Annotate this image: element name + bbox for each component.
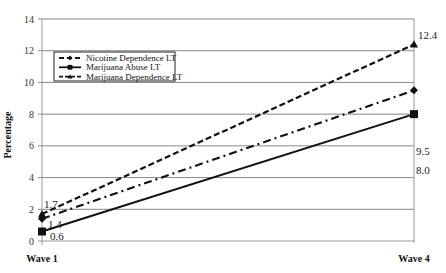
- y-tick-label: 6: [29, 140, 34, 151]
- data-label: 8.0: [416, 164, 430, 176]
- y-axis-label: Percentage: [2, 111, 13, 159]
- x-category-label: Wave 4: [398, 253, 429, 264]
- y-tick-label: 14: [24, 14, 34, 25]
- data-label: 12.4: [418, 29, 438, 41]
- y-tick-label: 12: [24, 45, 34, 56]
- y-tick-label: 4: [29, 172, 34, 183]
- series-marijuana-abuse-lt: [38, 110, 418, 235]
- y-axis: 02468101214: [24, 14, 42, 247]
- y-tick-label: 2: [29, 204, 34, 215]
- y-tick-label: 8: [29, 109, 34, 120]
- diamond-marker: [410, 86, 418, 94]
- legend: Nicotine Dependence LTMarijuana Abuse LT…: [54, 52, 183, 82]
- series-nicotine-dependence-lt: [38, 86, 418, 222]
- series-line: [42, 90, 414, 218]
- x-category-label: Wave 1: [26, 253, 57, 264]
- data-label: 1.7: [44, 198, 58, 210]
- data-label: 1.4: [48, 218, 62, 230]
- data-label: 9.5: [416, 145, 430, 157]
- square-marker: [38, 227, 46, 235]
- square-marker: [410, 110, 418, 118]
- legend-label: Marijuana Dependence LT: [86, 72, 183, 82]
- triangle-marker: [410, 40, 418, 47]
- data-label: 0.6: [50, 230, 64, 242]
- square-marker: [68, 65, 73, 70]
- y-tick-label: 10: [24, 77, 34, 88]
- series-line: [42, 114, 414, 231]
- line-chart: 02468101214 Wave 1Wave 4 Percentage 1.49…: [0, 0, 446, 273]
- y-tick-label: 0: [29, 236, 34, 247]
